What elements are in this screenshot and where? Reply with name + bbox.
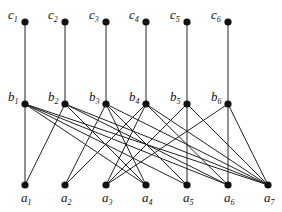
node-a1 — [21, 181, 28, 188]
node-c3 — [102, 18, 109, 25]
label-c3: c3 — [89, 7, 99, 24]
label-c1: c1 — [8, 7, 18, 24]
label-c6: c6 — [211, 7, 221, 24]
node-b3 — [102, 100, 109, 107]
edge-b4-a7 — [146, 104, 268, 185]
node-a2 — [61, 181, 68, 188]
label-a6: a6 — [224, 190, 235, 207]
edge-b2-a1 — [25, 104, 65, 185]
label-a1: a1 — [21, 190, 32, 207]
node-b6 — [224, 100, 231, 107]
node-b2 — [61, 100, 68, 107]
node-b4 — [142, 100, 149, 107]
label-c5: c5 — [170, 7, 180, 24]
label-c2: c2 — [48, 7, 58, 24]
label-a5: a5 — [183, 190, 194, 207]
node-a5 — [183, 181, 190, 188]
label-b4: b4 — [129, 89, 140, 106]
node-c1 — [21, 18, 28, 25]
edge-b3-a2 — [65, 104, 106, 185]
node-a6 — [224, 181, 231, 188]
label-a7: a7 — [264, 190, 276, 207]
node-c2 — [61, 18, 68, 25]
hasse-diagram: c1c2c3c4c5c6b1b2b3b4b5b6a1a2a3a4a5a6a7 — [0, 0, 282, 212]
edge-b6-a7 — [228, 104, 268, 185]
label-c4: c4 — [129, 7, 139, 24]
diagram-canvas: c1c2c3c4c5c6b1b2b3b4b5b6a1a2a3a4a5a6a7 — [0, 0, 282, 212]
label-b2: b2 — [48, 89, 59, 106]
node-a3 — [102, 181, 109, 188]
node-b1 — [21, 100, 28, 107]
node-a4 — [142, 181, 149, 188]
label-b6: b6 — [211, 89, 222, 106]
edge-b6-a3 — [106, 104, 228, 185]
label-b3: b3 — [89, 89, 100, 106]
label-a2: a2 — [61, 190, 72, 207]
label-b1: b1 — [8, 89, 19, 106]
label-a3: a3 — [102, 190, 113, 207]
node-b5 — [183, 100, 190, 107]
node-a7 — [264, 181, 271, 188]
node-c4 — [142, 18, 149, 25]
node-c5 — [183, 18, 190, 25]
node-c6 — [224, 18, 231, 25]
label-b5: b5 — [170, 89, 181, 106]
label-a4: a4 — [142, 190, 153, 207]
